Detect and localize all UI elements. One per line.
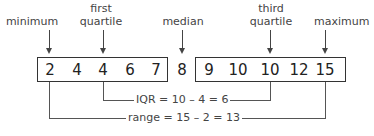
lower-value-5: 7 — [145, 61, 167, 79]
first-quartile-arrow — [103, 30, 104, 50]
third-quartile-arrowhead-icon — [267, 48, 273, 54]
iqr-label: IQR = 10 – 4 = 6 — [134, 93, 230, 106]
lower-value-3: 4 — [92, 61, 114, 79]
median-label: median — [158, 15, 208, 28]
lower-value-4: 6 — [119, 61, 141, 79]
range-label: range = 15 – 2 = 13 — [126, 111, 242, 124]
median-value: 8 — [171, 61, 193, 79]
range-bracket-right — [325, 82, 326, 118]
maximum-arrowhead-icon — [322, 48, 328, 54]
upper-value-4: 12 — [288, 61, 310, 79]
iqr-bracket-left — [103, 82, 104, 100]
third-quartile-label-line1: third — [246, 2, 296, 15]
third-quartile-arrow — [270, 30, 271, 50]
upper-value-5: 15 — [314, 61, 336, 79]
upper-value-3: 10 — [259, 61, 281, 79]
maximum-label: maximum — [314, 15, 374, 28]
minimum-label: minimum — [4, 15, 60, 28]
iqr-bracket-right — [270, 82, 271, 100]
median-arrow — [182, 30, 183, 50]
first-quartile-label-line2: quartile — [76, 15, 126, 28]
upper-value-2: 10 — [227, 61, 249, 79]
first-quartile-arrowhead-icon — [100, 48, 106, 54]
third-quartile-label-line2: quartile — [246, 15, 296, 28]
upper-value-1: 9 — [198, 61, 220, 79]
minimum-arrow — [49, 30, 50, 50]
lower-value-1: 2 — [39, 61, 61, 79]
maximum-arrow — [325, 30, 326, 50]
range-bracket-left — [49, 82, 50, 118]
lower-value-2: 4 — [66, 61, 88, 79]
median-arrowhead-icon — [179, 48, 185, 54]
minimum-arrowhead-icon — [46, 48, 52, 54]
first-quartile-label-line1: first — [76, 2, 126, 15]
